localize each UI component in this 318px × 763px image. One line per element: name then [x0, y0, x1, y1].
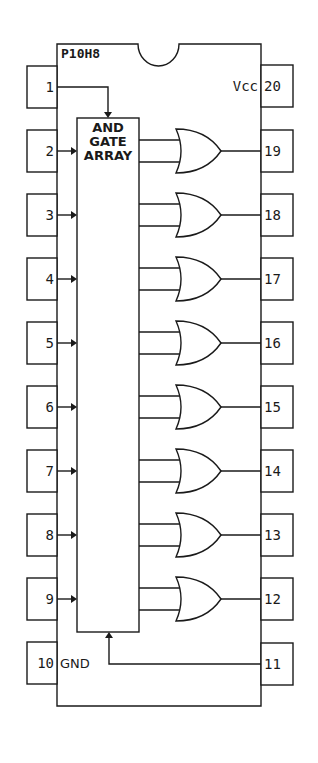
pin11-arrow-icon — [105, 632, 113, 638]
or-gate — [139, 449, 261, 493]
pin-17: 17 — [261, 258, 293, 300]
pin-number: 17 — [264, 271, 281, 287]
pin-2: 2 — [27, 130, 77, 172]
pin-20: 20 — [261, 65, 293, 107]
pin-1: 1 — [27, 66, 57, 108]
arrow-right-icon — [71, 147, 77, 155]
or-gate-icon — [176, 577, 221, 621]
pin-number: 5 — [46, 335, 54, 351]
or-gate-icon — [176, 513, 221, 557]
pin-18: 18 — [261, 194, 293, 236]
pin-number: 14 — [264, 463, 281, 479]
pin-number: 20 — [264, 78, 281, 94]
or-gate — [139, 257, 261, 301]
pin-number: 13 — [264, 527, 281, 543]
pin-19: 19 — [261, 130, 293, 172]
gnd-label: GND — [60, 656, 90, 671]
pin-number: 18 — [264, 207, 281, 223]
or-gate-icon — [176, 129, 221, 173]
pin-5: 5 — [27, 322, 77, 364]
or-gate-icon — [176, 385, 221, 429]
arrow-right-icon — [71, 403, 77, 411]
pin-number: 19 — [264, 143, 281, 159]
or-gate — [139, 193, 261, 237]
arrow-right-icon — [71, 211, 77, 219]
pin-number: 4 — [46, 271, 54, 287]
pin-13: 13 — [261, 514, 293, 556]
or-gate — [139, 577, 261, 621]
pin-number: 1 — [46, 79, 54, 95]
pin-number: 12 — [264, 591, 281, 607]
pin-number: 9 — [46, 591, 54, 607]
vcc-label: Vcc — [233, 78, 258, 94]
pin-16: 16 — [261, 322, 293, 364]
or-gate — [139, 385, 261, 429]
or-gate — [139, 513, 261, 557]
arrow-right-icon — [71, 467, 77, 475]
pin-6: 6 — [27, 386, 77, 428]
arrow-right-icon — [71, 275, 77, 283]
arrow-right-icon — [71, 595, 77, 603]
pin-8: 8 — [27, 514, 77, 556]
or-gate — [139, 129, 261, 173]
pin-4: 4 — [27, 258, 77, 300]
or-gate-icon — [176, 321, 221, 365]
or-gate-icon — [176, 257, 221, 301]
pin11-wire — [109, 638, 261, 664]
pin-7: 7 — [27, 450, 77, 492]
pin-number: 8 — [46, 527, 54, 543]
pin-number: 11 — [264, 656, 281, 672]
or-gate-icon — [176, 193, 221, 237]
arrow-right-icon — [71, 531, 77, 539]
pin-number: 3 — [46, 207, 54, 223]
and-gate-array-box — [77, 118, 139, 632]
part-number: P10H8 — [61, 46, 100, 61]
ic-pinout-diagram: P10H8 AND GATE ARRAY Vcc GND 12345678910… — [0, 0, 318, 763]
pin-number: 15 — [264, 399, 281, 415]
or-gate-icon — [176, 449, 221, 493]
pin1-arrow-icon — [104, 112, 112, 118]
pin-number: 7 — [46, 463, 54, 479]
pin-number: 2 — [46, 143, 54, 159]
or-gate — [139, 321, 261, 365]
chip-body — [57, 44, 261, 706]
pin-15: 15 — [261, 386, 293, 428]
pin-10: 10 — [27, 642, 57, 684]
array-label: ARRAY — [84, 148, 133, 163]
pin1-wire — [57, 87, 108, 112]
gate-label: GATE — [89, 134, 126, 149]
and-label: AND — [92, 120, 124, 135]
pin-3: 3 — [27, 194, 77, 236]
pin-number: 6 — [46, 399, 54, 415]
pin-9: 9 — [27, 578, 77, 620]
pin-11: 11 — [261, 643, 293, 685]
pin-12: 12 — [261, 578, 293, 620]
pin-14: 14 — [261, 450, 293, 492]
pin-number: 10 — [37, 655, 54, 671]
arrow-right-icon — [71, 339, 77, 347]
pin-number: 16 — [264, 335, 281, 351]
